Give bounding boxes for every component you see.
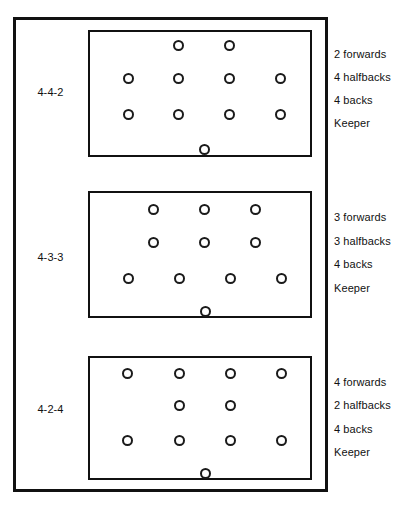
role-label: 4 backs — [334, 423, 373, 435]
formation-name-label: 4-2-4 — [13, 403, 88, 415]
player-marker-backs — [123, 273, 134, 284]
player-marker-backs — [174, 435, 185, 446]
player-marker-forwards — [250, 204, 261, 215]
player-marker-halfbacks — [173, 73, 184, 84]
player-marker-halfbacks — [225, 400, 236, 411]
player-marker-halfbacks — [123, 73, 134, 84]
role-label: 4 backs — [334, 258, 373, 270]
role-label: 4 backs — [334, 94, 373, 106]
player-marker-forwards — [199, 204, 210, 215]
player-marker-halfbacks — [275, 73, 286, 84]
player-marker-backs — [174, 273, 185, 284]
player-marker-keeper — [199, 144, 210, 155]
player-marker-backs — [225, 273, 236, 284]
player-marker-halfbacks — [250, 237, 261, 248]
player-marker-backs — [123, 109, 134, 120]
player-marker-halfbacks — [148, 237, 159, 248]
role-label: 4 halfbacks — [334, 71, 391, 83]
player-marker-forwards — [225, 368, 236, 379]
role-label: Keeper — [334, 282, 370, 294]
formation-name-label: 4-4-2 — [13, 86, 88, 98]
role-label: Keeper — [334, 117, 370, 129]
role-label: 2 forwards — [334, 48, 386, 60]
pitch-rectangle — [88, 30, 312, 157]
player-marker-keeper — [200, 306, 211, 317]
player-marker-forwards — [276, 368, 287, 379]
role-label: 3 halfbacks — [334, 235, 391, 247]
player-marker-halfbacks — [199, 237, 210, 248]
role-label: 4 forwards — [334, 376, 386, 388]
player-marker-backs — [276, 273, 287, 284]
player-marker-keeper — [200, 468, 211, 479]
player-marker-forwards — [122, 368, 133, 379]
player-marker-forwards — [148, 204, 159, 215]
player-marker-halfbacks — [174, 400, 185, 411]
role-label: 2 halfbacks — [334, 399, 391, 411]
player-marker-backs — [173, 109, 184, 120]
player-marker-backs — [225, 435, 236, 446]
role-label: 3 forwards — [334, 211, 386, 223]
player-marker-forwards — [173, 40, 184, 51]
role-label: Keeper — [334, 446, 370, 458]
player-marker-forwards — [174, 368, 185, 379]
player-marker-forwards — [224, 40, 235, 51]
formations-figure: 4-4-22 forwards4 halfbacks4 backsKeeper4… — [0, 0, 400, 507]
formation-name-label: 4-3-3 — [13, 251, 88, 263]
player-marker-backs — [224, 109, 235, 120]
player-marker-backs — [276, 435, 287, 446]
player-marker-backs — [275, 109, 286, 120]
player-marker-halfbacks — [224, 73, 235, 84]
player-marker-backs — [122, 435, 133, 446]
